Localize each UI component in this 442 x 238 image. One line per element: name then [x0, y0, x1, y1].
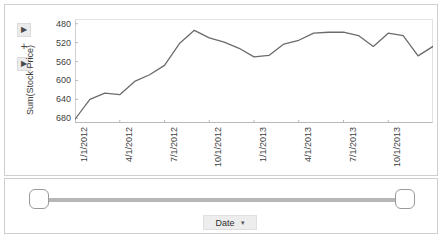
chart-panel: ▶ + ▶ Sum(Stock Price) 68064060056052048…: [4, 4, 438, 176]
x-axis-tick: 10/1/2012: [213, 127, 223, 167]
x-axis-tick: 7/1/2013: [348, 127, 358, 162]
date-dropdown-label: Date: [215, 218, 234, 228]
plot-area: [75, 19, 433, 123]
y-axis-tick: 480: [45, 19, 71, 29]
y-axis-title: Sum(Stock Price): [25, 25, 35, 135]
y-axis-tick: 520: [45, 38, 71, 48]
y-axis-tick: 600: [45, 75, 71, 85]
date-range-slider-panel: Date ▾: [4, 178, 438, 234]
stock-price-line: [75, 30, 433, 119]
y-axis-tick: 640: [45, 94, 71, 104]
line-series-svg: [75, 19, 433, 123]
y-axis-tick: 560: [45, 57, 71, 67]
date-dropdown-button[interactable]: Date ▾: [203, 215, 257, 230]
y-axis-tick: 680: [45, 113, 71, 123]
x-axis-tick-labels: 1/1/20124/1/20127/1/201210/1/20121/1/201…: [75, 125, 433, 171]
y-axis-tick-labels: 680640600560520480: [41, 19, 71, 123]
x-axis-tick: 1/1/2012: [79, 127, 89, 162]
x-axis-tick: 1/1/2013: [258, 127, 268, 162]
range-slider-handle-left[interactable]: [29, 189, 49, 209]
x-axis-tick: 7/1/2012: [169, 127, 179, 162]
chevron-down-icon: ▾: [241, 219, 245, 227]
axis-control-strip: ▶ + ▶ Sum(Stock Price): [13, 23, 35, 133]
stock-price-chart-widget: ▶ + ▶ Sum(Stock Price) 68064060056052048…: [0, 0, 442, 238]
x-axis-tick: 10/1/2013: [392, 127, 402, 167]
x-axis-tick: 4/1/2012: [124, 127, 134, 162]
range-slider-track[interactable]: [39, 198, 405, 202]
range-slider-handle-right[interactable]: [395, 189, 415, 209]
x-axis-tick: 4/1/2013: [303, 127, 313, 162]
